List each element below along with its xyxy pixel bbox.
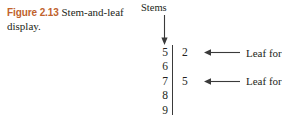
leaf-annotation-text: Leaf for 52	[246, 47, 282, 59]
stem-value: 9	[152, 103, 168, 117]
figure-number-label: Figure 2.13	[7, 7, 59, 18]
stem-value: 8	[152, 88, 168, 102]
leaf-annotation-text: Leaf for 75	[246, 75, 282, 87]
stem-value: 6	[152, 59, 168, 73]
table-row: 9	[152, 102, 282, 116]
arrow-down-icon	[160, 15, 169, 45]
stem-value: 5	[152, 45, 168, 59]
leaf-value: 2	[182, 45, 200, 59]
figure-caption: Figure 2.13 Stem-and-leaf display.	[7, 6, 135, 33]
leaf-value: 5	[182, 74, 200, 88]
arrow-left-icon	[204, 77, 240, 86]
stem-value: 7	[152, 74, 168, 88]
stem-and-leaf-plot: 5 2 Leaf for 52 6 7 5 Leaf for 75 8 9	[152, 44, 282, 116]
stems-header-label: Stems	[141, 2, 167, 13]
arrow-left-icon	[204, 48, 240, 57]
